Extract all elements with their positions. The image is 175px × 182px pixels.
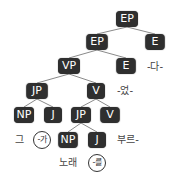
node-v: V [87,83,105,99]
node-e: E [146,34,165,50]
leaf-geu: 그 [15,133,24,147]
node-np: NP [14,107,34,123]
leaf-eoss: -었- [117,84,133,98]
leaf-reul-circled: -를 [88,154,106,172]
node-e-past: E [117,58,136,74]
leaf-da: -다- [147,60,163,74]
node-vp: VP [58,58,80,74]
node-ep: EP [87,34,108,50]
node-jp-object: JP [71,107,91,123]
node-np-object: NP [59,132,78,148]
leaf-ga-circled: -가 [33,131,51,149]
node-ep-root: EP [116,11,138,27]
leaf-bureu: 부르- [117,133,139,147]
node-j-object: J [88,132,106,148]
leaf-norae: 노래 [59,156,77,170]
node-j: J [44,107,62,123]
node-jp: JP [27,83,48,99]
node-v-verb: V [101,107,120,123]
